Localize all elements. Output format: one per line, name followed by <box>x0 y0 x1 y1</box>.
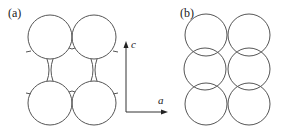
sphere <box>28 15 72 59</box>
panel-a-label: (a) <box>8 6 21 20</box>
a-axis-label: a <box>158 94 164 106</box>
axes: c a <box>124 38 169 115</box>
sphere <box>228 14 270 56</box>
sphere <box>72 15 116 59</box>
crystal-packing-diagram: (a) c a (b) <box>0 0 286 132</box>
a-axis-arrowhead-icon <box>161 110 168 115</box>
panel-a: (a) <box>8 6 118 125</box>
neck-joint <box>69 91 75 92</box>
c-axis-label: c <box>131 38 136 50</box>
sphere <box>185 14 227 56</box>
panel-b-label: (b) <box>180 6 194 20</box>
sphere <box>185 83 227 125</box>
bond-stub <box>26 51 31 52</box>
sphere <box>72 81 116 125</box>
neck-joint <box>69 48 75 49</box>
neck-joint <box>91 59 97 81</box>
panel-b: (b) <box>180 6 270 125</box>
bond-stub <box>113 51 118 52</box>
c-axis-arrowhead-icon <box>124 41 129 48</box>
sphere <box>184 48 226 90</box>
neck-joint <box>47 59 53 81</box>
sphere <box>28 81 72 125</box>
sphere <box>228 83 270 125</box>
sphere <box>228 48 270 90</box>
